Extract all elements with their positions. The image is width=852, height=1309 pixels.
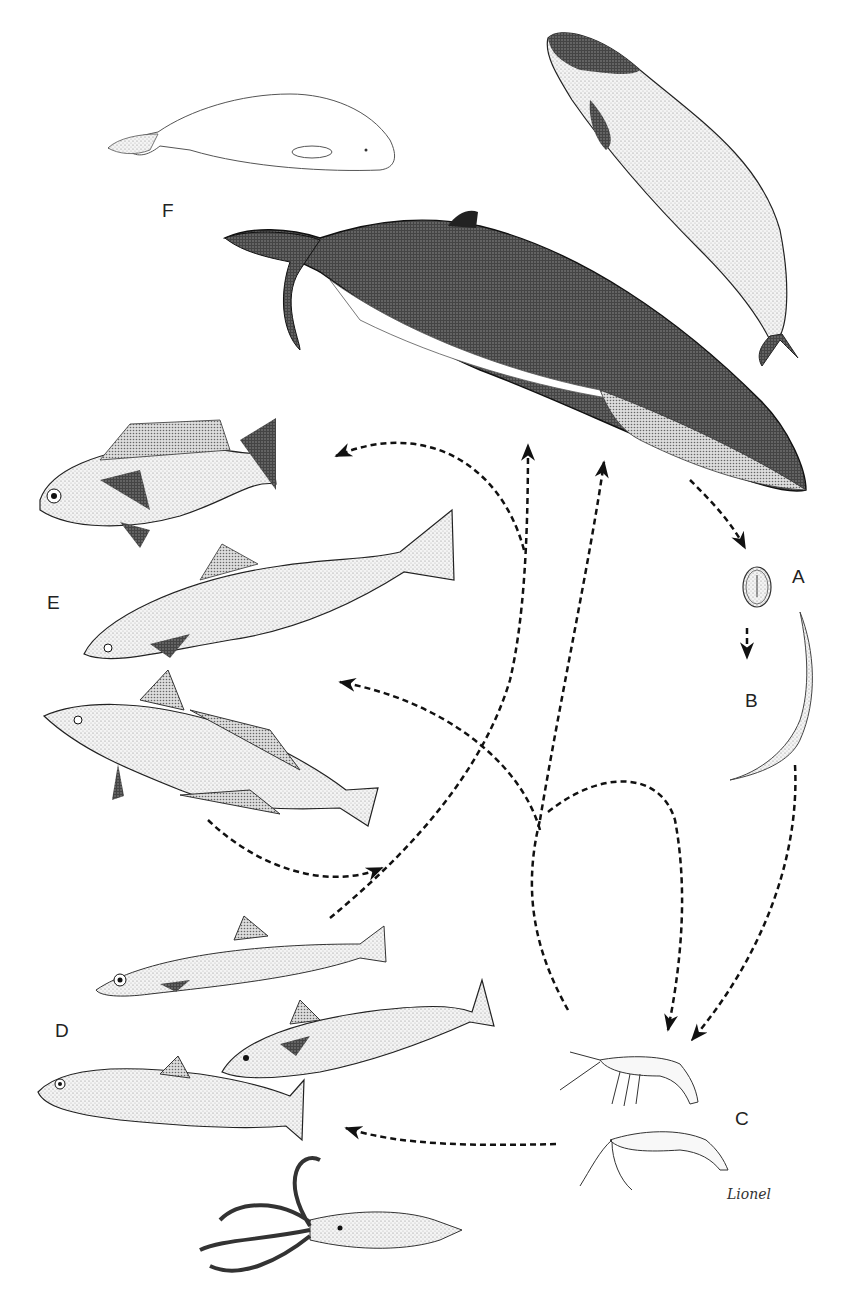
smelt-icon [96, 916, 386, 996]
mackerel-icon [222, 980, 494, 1078]
arrow-crustacean-to-herring [346, 1128, 556, 1145]
arrow-whale-to-egg [690, 480, 745, 548]
krill-icon [580, 1132, 728, 1190]
egg-icon [743, 567, 771, 607]
arrow-loop-to-crustacean [548, 781, 682, 1030]
arrow-pollock-loop [208, 820, 382, 877]
artist-signature: Lionel [727, 1186, 771, 1202]
arrow-crustacean-loop [532, 820, 568, 1010]
arrow-smelt-up [330, 445, 528, 918]
life-cycle-diagram [0, 0, 852, 1309]
label-a: A [792, 566, 805, 588]
rockfish-icon [40, 418, 276, 548]
label-d: D [55, 1020, 69, 1042]
label-c: C [735, 1108, 749, 1130]
pollock-icon [44, 670, 378, 826]
arrow-to-whale [540, 462, 604, 820]
larva-icon [730, 612, 812, 780]
squid-icon [200, 1158, 462, 1271]
arrow-larva-to-crustacean [692, 765, 795, 1040]
shrimp-icon [560, 1052, 698, 1106]
label-b: B [745, 690, 758, 712]
label-f: F [162, 200, 174, 222]
label-e: E [47, 592, 60, 614]
beluga-whale-icon [108, 94, 395, 170]
